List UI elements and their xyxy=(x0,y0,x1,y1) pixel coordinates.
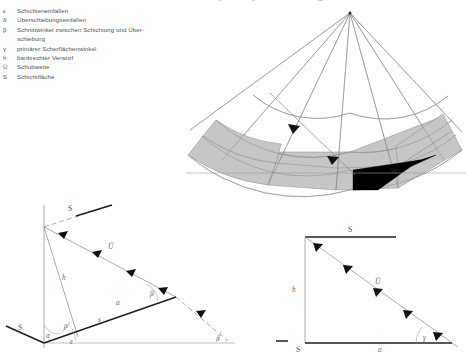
right-arrowhead-5 xyxy=(433,332,443,341)
oblique-vector-triangle: S S h Ü a s α ρ ε β δ xyxy=(6,204,235,348)
left-label-alpha: α xyxy=(46,331,50,340)
left-arrowhead-u3 xyxy=(126,269,136,277)
radial-fan-diagram xyxy=(186,12,466,197)
right-vector-triangle: S S h a Ü γ xyxy=(276,225,458,354)
left-label-S-bottom: S xyxy=(18,323,22,332)
left-label-beta: β xyxy=(149,289,154,298)
right-label-gamma: γ xyxy=(423,333,427,342)
left-label-U: Ü xyxy=(108,242,114,251)
left-label-epsilon: ε xyxy=(70,337,73,346)
fan-arrowhead-1 xyxy=(288,124,300,134)
left-slip-dashed-ext xyxy=(176,297,228,341)
right-arrowhead-2 xyxy=(343,265,353,274)
right-label-h: h xyxy=(292,285,296,294)
right-label-U: Ü xyxy=(375,277,381,286)
left-arrowhead-u4 xyxy=(158,287,168,295)
right-arrowhead-4 xyxy=(403,310,413,319)
left-throw-line-h xyxy=(44,227,78,337)
left-offset-line-a xyxy=(44,297,176,343)
figure-root: δ δ m ε Schichteneinfallen δ Überschiebu… xyxy=(0,0,466,354)
right-label-S-bottom: S xyxy=(296,345,300,354)
fan-apex-point xyxy=(349,12,352,15)
left-arrowhead-ext xyxy=(196,310,206,318)
right-arrowhead-3 xyxy=(373,288,383,297)
left-label-a: a xyxy=(116,298,120,307)
left-bedding-thick-bottom xyxy=(6,326,44,343)
left-label-delta: δ xyxy=(216,334,220,343)
right-angle-arc-gamma xyxy=(416,327,422,343)
right-arrowhead-1 xyxy=(313,243,323,252)
left-label-s: s xyxy=(98,315,101,324)
left-label-h: h xyxy=(62,273,66,282)
left-bedding-thick-top xyxy=(76,205,112,216)
right-hypotenuse-U xyxy=(305,237,458,347)
left-label-rho: ρ xyxy=(63,321,68,330)
right-label-S-top: S xyxy=(348,225,352,234)
left-label-S-top: S xyxy=(68,204,72,213)
diagram-canvas: S S h Ü a s α ρ ε β δ xyxy=(0,0,466,354)
right-label-a: a xyxy=(378,345,382,354)
